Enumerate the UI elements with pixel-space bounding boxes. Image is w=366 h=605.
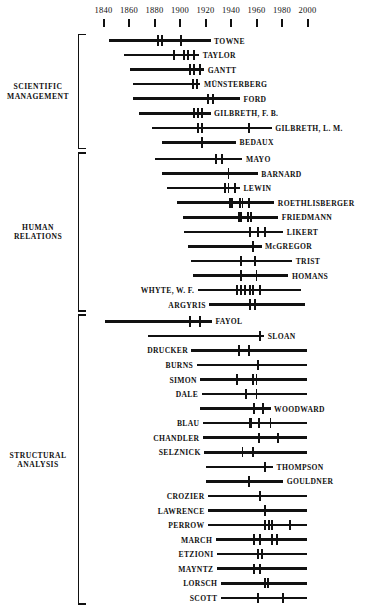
person-label: WHYTE, W. F.: [141, 286, 195, 295]
axis-tick: [205, 19, 207, 27]
publication-mark: [193, 108, 195, 118]
publication-mark: [231, 198, 233, 208]
publication-mark: [236, 374, 238, 384]
lifespan-bar: [200, 378, 307, 381]
lifespan-bar: [188, 245, 262, 248]
lifespan-bar: [206, 466, 274, 469]
publication-mark: [257, 360, 259, 370]
lifespan-bar: [203, 422, 308, 425]
lifespan-bar: [216, 538, 308, 541]
person-label: MAYNTZ: [178, 564, 213, 573]
person-label: FAYOL: [215, 317, 242, 326]
publication-mark: [256, 270, 258, 280]
lifespan-bar: [204, 451, 307, 454]
person-label: GILBRETH, F. B.: [214, 109, 278, 118]
axis-tick: [307, 19, 309, 27]
publication-mark: [253, 534, 255, 544]
publication-mark: [192, 79, 194, 89]
person-label: ROETHLISBERGER: [278, 198, 355, 207]
publication-mark: [252, 447, 254, 457]
publication-mark: [253, 403, 255, 413]
publication-mark: [180, 35, 182, 45]
person-label: ETZIONI: [179, 550, 214, 559]
publication-mark: [183, 50, 185, 60]
lifespan-bar: [183, 216, 279, 219]
publication-mark: [282, 593, 284, 603]
person-label: THOMPSON: [277, 462, 324, 471]
person-label: DRUCKER: [147, 346, 188, 355]
lifespan-bar: [203, 436, 308, 439]
lifespan-bar: [208, 509, 307, 512]
publication-mark: [259, 491, 261, 501]
publication-mark: [258, 418, 260, 428]
lifespan-bar: [217, 567, 308, 570]
publication-mark: [228, 183, 230, 193]
publication-mark: [256, 389, 258, 399]
publication-mark: [249, 227, 251, 237]
person-label: TOWNE: [214, 36, 245, 45]
person-label: HOMANS: [292, 271, 328, 280]
publication-mark: [257, 593, 259, 603]
publication-mark: [242, 198, 244, 208]
publication-mark: [242, 447, 244, 457]
axis-tick-label: 1960: [248, 5, 266, 15]
publication-mark: [264, 505, 266, 515]
publication-mark: [236, 285, 238, 295]
publication-mark: [197, 123, 199, 133]
person-label: CROZIER: [167, 491, 205, 500]
person-label: GANTT: [208, 65, 237, 74]
publication-mark: [254, 299, 256, 309]
lifespan-bar: [208, 524, 307, 527]
lifespan-bar: [152, 127, 272, 130]
publication-mark: [248, 198, 250, 208]
person-label: WOODWARD: [274, 404, 325, 413]
lifespan-bar: [177, 201, 274, 204]
person-label: DALE: [176, 390, 199, 399]
publication-mark: [248, 476, 250, 486]
axis-tick: [230, 19, 232, 27]
lifespan-bar: [155, 158, 243, 161]
publication-mark: [259, 534, 261, 544]
publication-mark: [240, 212, 242, 222]
group-label: SCIENTIFIC MANAGEMENT: [2, 82, 74, 101]
lifespan-bar: [148, 335, 264, 338]
publication-mark: [221, 154, 223, 164]
publication-mark: [189, 316, 191, 326]
publication-mark: [215, 154, 217, 164]
publication-mark: [264, 520, 266, 530]
person-label: BURNS: [166, 361, 194, 370]
publication-mark: [259, 331, 261, 341]
person-label: MÜNSTERBERG: [204, 80, 267, 89]
lifespan-bar: [162, 141, 236, 144]
publication-mark: [252, 241, 254, 251]
axis-tick-label: 1940: [222, 5, 240, 15]
person-label: LORSCH: [183, 579, 217, 588]
person-label: TRIST: [296, 256, 321, 265]
publication-mark: [224, 183, 226, 193]
publication-mark: [250, 418, 252, 428]
publication-mark: [258, 433, 260, 443]
person-label: CHANDLER: [153, 433, 199, 442]
publication-mark: [193, 64, 195, 74]
axis-tick-label: 1900: [171, 5, 189, 15]
publication-mark: [207, 94, 209, 104]
axis-tick-label: 2000: [299, 5, 317, 15]
person-label: SELZNICK: [159, 448, 201, 457]
axis-tick-label: 1880: [146, 5, 164, 15]
publication-mark: [201, 123, 203, 133]
publication-mark: [257, 549, 259, 559]
publication-mark: [247, 212, 249, 222]
publication-mark: [197, 108, 199, 118]
publication-mark: [196, 79, 198, 89]
group-bracket: [78, 34, 79, 150]
publication-mark: [271, 534, 273, 544]
lifespan-bar: [221, 597, 308, 600]
person-label: BLAU: [177, 419, 200, 428]
person-label: McGREGOR: [265, 242, 312, 251]
publication-mark: [189, 64, 191, 74]
publication-mark: [228, 168, 230, 178]
publication-mark: [253, 564, 255, 574]
person-label: ARGYRIS: [168, 300, 205, 309]
publication-mark: [270, 418, 272, 428]
group-bracket: [78, 152, 79, 312]
